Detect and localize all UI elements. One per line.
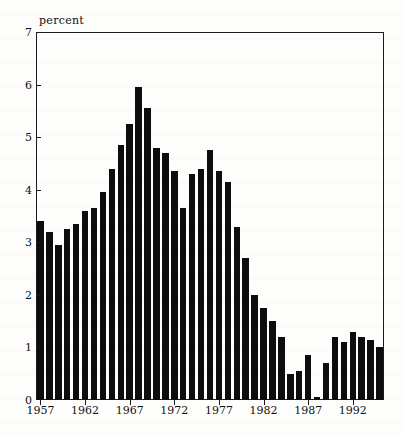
x-axis-tick-label: 1962: [71, 404, 99, 417]
y-axis-tick-mark: [36, 242, 41, 243]
x-axis-tick-label: 1967: [116, 404, 144, 417]
bar: [109, 169, 115, 400]
x-axis-tick-mark: [40, 400, 41, 405]
bar: [332, 337, 338, 400]
bar: [64, 229, 70, 400]
bar: [100, 192, 106, 400]
y-axis-tick-labels: 01234567: [0, 0, 32, 435]
x-axis-tick-label: 1977: [205, 404, 233, 417]
y-axis-tick-mark: [36, 190, 41, 191]
bar: [144, 108, 150, 400]
x-axis-tick-mark: [353, 400, 354, 405]
bar: [350, 332, 356, 400]
x-axis-tick-mark: [219, 400, 220, 405]
bar: [358, 337, 364, 400]
y-axis-tick-mark: [36, 85, 41, 86]
y-axis-tick-mark: [36, 295, 41, 296]
bar: [234, 227, 240, 400]
bar: [73, 224, 79, 400]
bar: [207, 150, 213, 400]
bar: [323, 363, 329, 400]
bar: [287, 374, 293, 400]
y-axis-tick-label: 6: [6, 78, 32, 91]
x-axis-tick-label: 1992: [339, 404, 367, 417]
x-axis-tick-mark: [308, 400, 309, 405]
x-axis-tick-mark: [174, 400, 175, 405]
bar: [118, 145, 124, 400]
bar: [46, 232, 52, 400]
bar: [260, 308, 266, 400]
x-axis-tick-mark: [130, 400, 131, 405]
bar: [135, 87, 141, 400]
y-axis-tick-label: 5: [6, 131, 32, 144]
bar-chart-figure: percent 01234567 19571962196719721977198…: [0, 0, 403, 435]
bar: [180, 208, 186, 400]
y-axis-tick-mark: [36, 347, 41, 348]
x-axis-tick-mark: [264, 400, 265, 405]
x-axis-tick-label: 1972: [160, 404, 188, 417]
x-axis-tick-label: 1982: [250, 404, 278, 417]
bar: [251, 295, 257, 400]
bar: [269, 321, 275, 400]
x-axis-tick-label: 1987: [294, 404, 322, 417]
bar: [314, 397, 320, 400]
x-axis-tick-label: 1957: [26, 404, 54, 417]
bar: [242, 258, 248, 400]
bar: [376, 347, 382, 400]
bar: [341, 342, 347, 400]
bar: [171, 171, 177, 400]
y-axis-tick-mark: [36, 137, 41, 138]
bar: [225, 182, 231, 400]
bar: [126, 124, 132, 400]
bar: [305, 355, 311, 400]
y-axis-tick-label: 7: [6, 26, 32, 39]
bars-layer: [36, 32, 384, 400]
x-axis-tick-mark: [85, 400, 86, 405]
y-axis-tick-label: 1: [6, 341, 32, 354]
y-axis-tick-label: 4: [6, 183, 32, 196]
bar: [189, 174, 195, 400]
bar: [296, 371, 302, 400]
bar: [162, 153, 168, 400]
bar: [278, 337, 284, 400]
y-axis-tick-mark: [36, 32, 41, 33]
bar: [216, 171, 222, 400]
y-axis-unit-label: percent: [39, 14, 84, 27]
bar: [198, 169, 204, 400]
bar: [82, 211, 88, 400]
bar: [55, 245, 61, 400]
y-axis-tick-label: 3: [6, 236, 32, 249]
bar: [91, 208, 97, 400]
bar: [37, 221, 43, 400]
y-axis-tick-label: 2: [6, 288, 32, 301]
bar: [153, 148, 159, 400]
bar: [367, 340, 373, 400]
